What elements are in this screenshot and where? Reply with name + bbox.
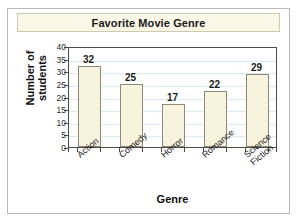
x-axis-tick-labels: ActionComedyHorrorRomanceScienceFiction	[68, 150, 283, 192]
bar-value-label: 22	[197, 79, 232, 90]
y-axis-tick-label: 15	[57, 106, 66, 115]
y-axis-title-line-2: students	[36, 55, 48, 101]
y-axis-tick-label: 35	[57, 56, 66, 65]
y-axis-title-line-1: Number of	[24, 51, 36, 106]
bar-value-label: 25	[113, 72, 148, 83]
chart-figure: Favorite Movie Genre 4035302520151050 Nu…	[0, 0, 298, 222]
y-axis-tick-label: 0	[61, 144, 66, 153]
bar-value-label: 32	[71, 54, 106, 65]
y-axis-tick-label: 10	[57, 119, 66, 128]
chart-title: Favorite Movie Genre	[92, 17, 206, 29]
y-axis-tick-label: 40	[57, 43, 66, 52]
y-axis-tick-label: 30	[57, 68, 66, 77]
chart-title-banner: Favorite Movie Genre	[17, 13, 280, 32]
bar-value-label: 17	[155, 92, 190, 103]
y-axis-title: Number of students	[22, 36, 50, 120]
bar	[78, 66, 101, 147]
bar-value-label: 29	[239, 62, 274, 73]
y-axis-tick-label: 5	[61, 131, 66, 140]
y-axis-tick-label: 20	[57, 94, 66, 103]
x-axis-title: Genre	[68, 193, 277, 205]
y-axis-tick-label: 25	[57, 81, 66, 90]
